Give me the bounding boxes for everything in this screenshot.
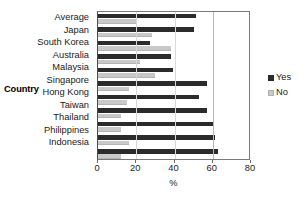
bar-group <box>98 80 249 94</box>
bar-yes <box>98 122 213 127</box>
bar-no <box>98 19 136 24</box>
bar-group <box>98 26 249 40</box>
bar-group <box>98 134 249 148</box>
x-axis-title: % <box>97 178 250 188</box>
bar-no <box>98 46 171 51</box>
bar-no <box>98 154 121 159</box>
category-label: Average <box>0 11 93 24</box>
bar-yes <box>98 54 171 59</box>
bar-rows <box>98 12 249 159</box>
plot-area <box>97 11 250 160</box>
bar-yes <box>98 27 194 32</box>
bar-chart: AverageJapanSouth KoreaAustraliaMalaysia… <box>0 0 303 202</box>
x-tick-label: 80 <box>245 163 255 173</box>
legend: YesNo <box>268 72 291 102</box>
x-axis-ticks: 020406080 <box>97 160 250 174</box>
bar-yes <box>98 135 215 140</box>
x-tick-label: 60 <box>207 163 217 173</box>
category-label: South Korea <box>0 36 93 49</box>
legend-item: Yes <box>268 72 291 84</box>
bar-group <box>98 66 249 80</box>
bar-group <box>98 93 249 107</box>
bar-yes <box>98 81 207 86</box>
x-tick-label: 20 <box>130 163 140 173</box>
bar-no <box>98 141 129 146</box>
gridline <box>136 12 137 159</box>
gridline <box>175 12 176 159</box>
x-tick-label: 0 <box>94 163 99 173</box>
gridline <box>213 12 214 159</box>
bar-no <box>98 87 129 92</box>
bar-group <box>98 12 249 26</box>
legend-item: No <box>268 87 291 99</box>
bar-no <box>98 33 152 38</box>
x-tick-label: 40 <box>168 163 178 173</box>
bar-no <box>98 100 127 105</box>
bar-group <box>98 39 249 53</box>
category-label: Australia <box>0 49 93 62</box>
bar-group <box>98 107 249 121</box>
bar-yes <box>98 41 150 46</box>
category-label: Philippines <box>0 124 93 137</box>
y-axis-title: Country <box>4 84 39 94</box>
category-label: Indonesia <box>0 136 93 149</box>
bar-yes <box>98 108 207 113</box>
legend-swatch-no <box>268 90 274 96</box>
bar-yes <box>98 95 199 100</box>
legend-label: Yes <box>276 73 291 82</box>
category-label: Japan <box>0 24 93 37</box>
bar-group <box>98 53 249 67</box>
bar-no <box>98 60 140 65</box>
category-label: Malaysia <box>0 61 93 74</box>
bar-group <box>98 147 249 161</box>
bar-yes <box>98 149 218 154</box>
category-label: Thailand <box>0 111 93 124</box>
legend-swatch-yes <box>268 75 274 81</box>
category-axis-labels: AverageJapanSouth KoreaAustraliaMalaysia… <box>0 11 93 149</box>
bar-no <box>98 114 121 119</box>
bar-yes <box>98 14 196 19</box>
category-label: Taiwan <box>0 99 93 112</box>
bar-no <box>98 127 121 132</box>
bar-group <box>98 120 249 134</box>
bar-no <box>98 73 155 78</box>
legend-label: No <box>276 88 288 97</box>
